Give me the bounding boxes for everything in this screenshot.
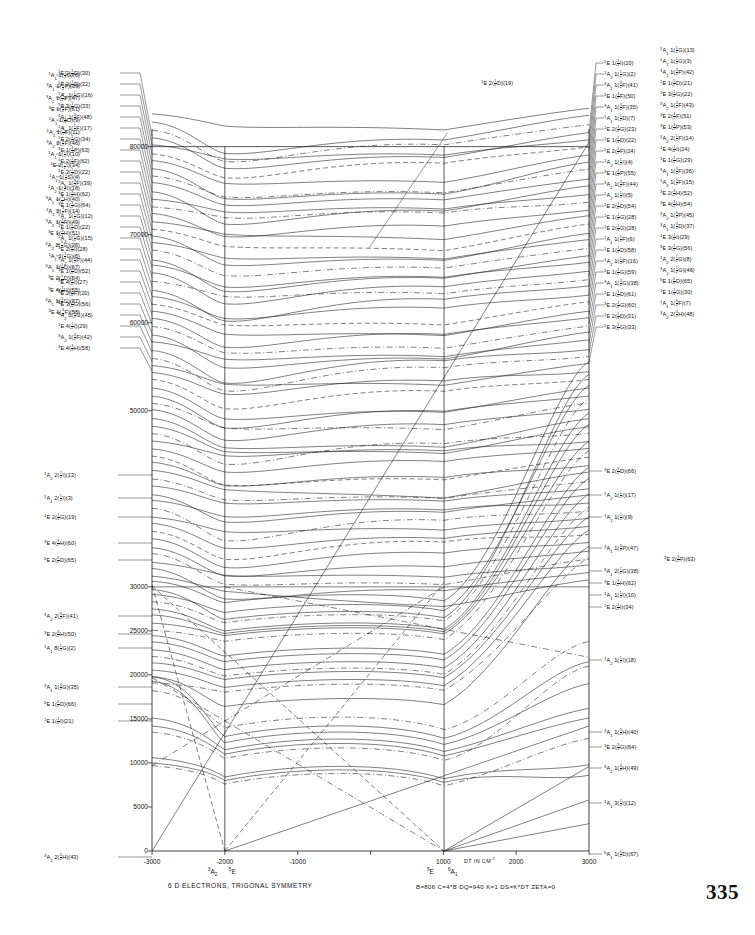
energy-curve[interactable] — [152, 350, 589, 384]
energy-curve[interactable] — [152, 396, 589, 428]
energy-curve[interactable] — [152, 286, 589, 321]
energy-curve[interactable] — [152, 195, 589, 213]
level-term-label: 3A1 1(32H)(40) — [604, 729, 638, 737]
energy-curve[interactable] — [225, 582, 444, 851]
level-term-label: 1A2 1(12G)(16) — [58, 92, 93, 100]
level-term-label: 5E 1(52D)(66) — [44, 701, 76, 709]
energy-curve[interactable] — [152, 216, 589, 240]
energy-curve[interactable] — [152, 523, 589, 548]
energy-curve[interactable] — [152, 678, 444, 851]
level-term-label: 3A2 1(32P)(44) — [58, 257, 92, 265]
energy-curve[interactable] — [444, 824, 589, 851]
energy-curve[interactable] — [152, 332, 589, 368]
parameter-list: B=806 C=4*B DQ=940 K=1 DS=K*DT ZETA=0 — [416, 884, 555, 890]
energy-curve[interactable] — [152, 356, 589, 391]
level-term-label: 1E 2(12I)(28) — [58, 246, 88, 254]
energy-curve[interactable] — [152, 441, 589, 456]
energy-curve[interactable] — [152, 508, 589, 541]
energy-curve[interactable] — [152, 398, 589, 622]
energy-curve[interactable] — [152, 479, 589, 501]
label-leader-line — [140, 172, 152, 221]
energy-curve[interactable] — [152, 517, 589, 680]
page-number: 335 — [706, 880, 739, 905]
level-term-label: 1E 1(32F)(50) — [604, 93, 635, 101]
level-term-label: 5A1 1(52D)(67) — [604, 851, 638, 859]
energy-curve[interactable] — [444, 800, 589, 851]
level-term-label: 1E 1(12D)(58) — [604, 247, 636, 255]
energy-curve[interactable] — [152, 115, 589, 154]
energy-curve[interactable] — [152, 388, 589, 419]
energy-curve[interactable] — [152, 662, 589, 739]
y-tick-label: 5000 — [108, 803, 148, 810]
energy-curve[interactable] — [152, 494, 589, 670]
level-term-label: 1E 3(12G)(22) — [660, 91, 692, 99]
level-term-label: 3E 4(32H)(58) — [58, 345, 90, 353]
energy-curve[interactable] — [152, 326, 589, 353]
level-term-label: 3E 1(32H)(62) — [58, 191, 90, 199]
energy-curve[interactable] — [152, 557, 589, 692]
label-leader-line — [140, 161, 152, 211]
level-term-label: 1A1 1(12G)(3) — [660, 58, 692, 66]
energy-curve[interactable] — [152, 424, 589, 633]
energy-curve[interactable] — [152, 548, 589, 577]
energy-curve[interactable] — [152, 179, 589, 206]
energy-curve[interactable] — [152, 147, 589, 178]
energy-curve[interactable] — [152, 426, 589, 453]
energy-curve[interactable] — [152, 456, 589, 485]
energy-curve[interactable] — [444, 766, 589, 851]
energy-curve[interactable] — [152, 256, 589, 292]
energy-curve[interactable] — [152, 738, 589, 786]
energy-curve[interactable] — [152, 462, 589, 486]
energy-curve[interactable] — [225, 726, 589, 851]
x-tick-label: 3000 — [567, 858, 611, 865]
level-term-label: 3E 1(32H)(62) — [604, 580, 636, 588]
energy-curve[interactable] — [152, 248, 589, 276]
label-leader-line — [589, 140, 596, 199]
label-leader-line — [589, 305, 596, 343]
annotation-leader[interactable] — [369, 133, 448, 248]
energy-curve[interactable] — [152, 340, 589, 360]
energy-curve[interactable] — [152, 758, 589, 779]
energy-curve[interactable] — [152, 262, 589, 287]
energy-curve[interactable] — [152, 448, 589, 472]
energy-curve[interactable] — [152, 271, 589, 304]
energy-curve[interactable] — [152, 311, 589, 335]
label-leader-line — [589, 272, 596, 314]
level-term-label: 1A1 1(32F)(7) — [660, 300, 691, 308]
energy-curve[interactable] — [152, 531, 589, 559]
energy-curve[interactable] — [152, 140, 589, 160]
energy-curve[interactable] — [152, 108, 589, 130]
label-leader-line — [589, 327, 596, 362]
energy-curve[interactable] — [152, 295, 589, 319]
energy-curve[interactable] — [152, 363, 589, 385]
level-term-label: 3A2 1(32F)(41) — [604, 82, 638, 90]
label-leader-line — [589, 118, 596, 180]
level-term-label: 1E 1(12D)(21) — [660, 80, 692, 88]
crossing-state-label: 5E — [427, 868, 434, 875]
energy-curve[interactable] — [152, 507, 589, 676]
energy-curve[interactable] — [152, 562, 589, 577]
label-leader-line — [140, 84, 152, 145]
energy-curve[interactable] — [152, 418, 589, 448]
energy-curve[interactable] — [152, 585, 225, 851]
energy-curve[interactable] — [152, 162, 589, 199]
label-leader-line — [589, 151, 596, 209]
energy-curve[interactable] — [152, 409, 589, 440]
energy-curve[interactable] — [152, 763, 589, 782]
energy-curve[interactable] — [152, 372, 589, 395]
level-term-label: 1A1 3(12I)(12) — [604, 800, 636, 808]
energy-curve[interactable] — [152, 718, 589, 756]
energy-curve[interactable] — [152, 666, 589, 760]
level-term-label: 1A1 1(12G)(13) — [660, 47, 695, 55]
energy-curve[interactable] — [152, 576, 589, 606]
energy-curve[interactable] — [152, 240, 589, 260]
energy-curve[interactable] — [152, 318, 589, 348]
level-term-label: 1E 4(12I)(27) — [58, 279, 88, 287]
crossing-state-label: 3A2 — [208, 868, 217, 875]
energy-curve[interactable] — [152, 280, 589, 298]
label-leader-line — [589, 217, 596, 266]
energy-curve[interactable] — [152, 233, 589, 265]
level-term-label: 3A1 1(32F)(36) — [660, 168, 694, 176]
energy-curve[interactable] — [152, 302, 589, 326]
energy-curve[interactable] — [152, 379, 589, 409]
